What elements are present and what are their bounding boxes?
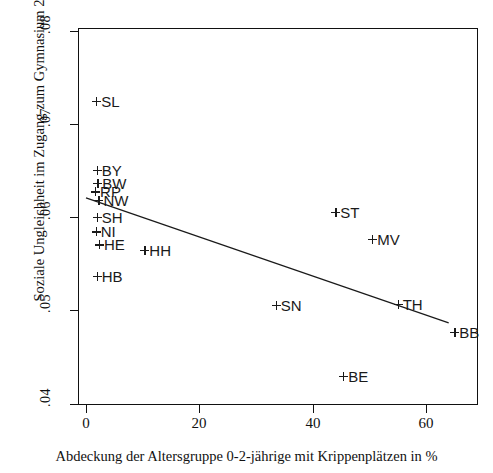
plus-marker-icon (93, 166, 102, 175)
x-tick-mark (313, 405, 314, 413)
x-tick-label-0: 0 (66, 415, 106, 432)
plus-marker-icon (92, 227, 101, 236)
plus-marker-icon (368, 235, 377, 244)
y-tick-label-4: .04 (38, 388, 68, 407)
data-point-label: HH (149, 243, 171, 258)
y-tick-mark (70, 404, 78, 405)
plot-area-frame (78, 28, 478, 405)
x-tick-label-2: 40 (293, 415, 333, 432)
plus-marker-icon (93, 213, 102, 222)
data-point-label: SH (102, 210, 123, 225)
data-point-label: SL (101, 94, 119, 109)
data-point-label: BB (459, 325, 479, 340)
x-tick-mark (86, 405, 87, 413)
y-tick-mark (70, 310, 78, 311)
data-point-label: SN (281, 298, 302, 313)
plus-marker-icon (92, 97, 101, 106)
y-tick-mark (70, 124, 78, 125)
x-axis-title: Abdeckung der Altersgruppe 0-2-jährige m… (0, 448, 493, 465)
data-point-label: ST (340, 205, 359, 220)
plus-marker-icon (394, 300, 403, 309)
y-tick-mark (70, 217, 78, 218)
plus-marker-icon (140, 246, 149, 255)
y-axis-title: Soziale Ungleichheit im Zugang zum Gymna… (31, 2, 48, 302)
data-point-label: MV (377, 232, 400, 247)
data-point-label: TH (403, 297, 423, 312)
x-tick-label-1: 20 (179, 415, 219, 432)
data-point-label: BE (348, 369, 368, 384)
data-point-label: NW (103, 193, 128, 208)
plus-marker-icon (94, 196, 103, 205)
x-tick-label-3: 60 (406, 415, 446, 432)
plus-marker-icon (95, 240, 104, 249)
scatter-plot-figure: .08 .07 .06 .05 .04 0 20 40 60 SLBYBWRPN… (0, 0, 493, 473)
plus-marker-icon (331, 208, 340, 217)
x-tick-mark (199, 405, 200, 413)
data-point-label: HE (104, 237, 125, 252)
plus-marker-icon (93, 272, 102, 281)
y-tick-mark (70, 31, 78, 32)
x-tick-mark (426, 405, 427, 413)
plus-marker-icon (339, 372, 348, 381)
plus-marker-icon (450, 328, 459, 337)
plus-marker-icon (272, 301, 281, 310)
data-point-label: HB (102, 269, 123, 284)
